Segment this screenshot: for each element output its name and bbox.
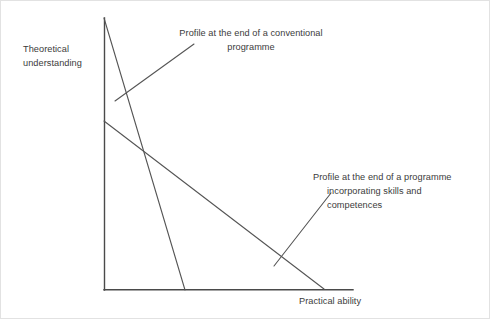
x-axis-label-text: Practical ability bbox=[299, 294, 361, 308]
y-axis-label: Theoretical understanding bbox=[23, 42, 82, 70]
y-axis-label-line-2: understanding bbox=[23, 56, 82, 70]
caption-skills-programme: Profile at the end of a programme incorp… bbox=[313, 170, 452, 212]
skills-profile-line bbox=[104, 121, 324, 289]
caption-skills-line-2: incorporating skills and bbox=[313, 184, 452, 198]
diagram-canvas: Theoretical understanding Practical abil… bbox=[0, 0, 490, 319]
x-axis-label: Practical ability bbox=[299, 294, 361, 308]
caption-conventional-programme: Profile at the end of a conventional pro… bbox=[166, 26, 336, 54]
caption-conventional-line-1: Profile at the end of a conventional bbox=[166, 26, 336, 40]
caption-skills-line-1: Profile at the end of a programme bbox=[313, 170, 452, 184]
caption-skills-line-3: competences bbox=[313, 198, 452, 212]
caption-conventional-line-2: programme bbox=[166, 40, 336, 54]
y-axis-label-line-1: Theoretical bbox=[23, 42, 82, 56]
